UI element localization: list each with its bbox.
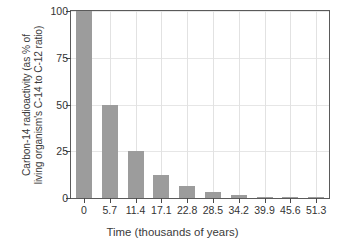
y-axis-title-line-1: Carbon-14 radioactivity (as % of xyxy=(21,34,32,176)
gridline-vertical xyxy=(187,11,188,198)
x-tick-mark xyxy=(161,198,162,203)
x-tick-mark xyxy=(265,198,266,203)
x-tick-mark xyxy=(110,198,111,203)
x-tick-label: 17.1 xyxy=(151,204,171,216)
x-tick-label: 39.9 xyxy=(254,204,274,216)
plot-area: 025507510005.711.417.122.828.534.239.945… xyxy=(70,10,330,199)
x-tick-mark xyxy=(239,198,240,203)
x-tick-label: 11.4 xyxy=(126,204,146,216)
x-axis-title: Time (thousands of years) xyxy=(0,226,345,238)
x-tick-mark xyxy=(136,198,137,203)
x-tick-label: 5.7 xyxy=(102,204,117,216)
y-tick-label: 75 xyxy=(56,52,68,64)
bar xyxy=(76,11,92,198)
x-tick-mark xyxy=(290,198,291,203)
y-tick-label: 25 xyxy=(56,145,68,157)
bar xyxy=(179,186,195,198)
x-tick-mark xyxy=(213,198,214,203)
gridline-vertical xyxy=(213,11,214,198)
y-axis-title-line-2: living organism's C-14 to C-12 ratio) xyxy=(33,26,44,184)
gridline-vertical xyxy=(265,11,266,198)
x-tick-mark xyxy=(187,198,188,203)
x-tick-label: 45.6 xyxy=(280,204,300,216)
x-tick-label: 22.8 xyxy=(177,204,197,216)
x-tick-mark xyxy=(84,198,85,203)
gridline-vertical xyxy=(239,11,240,198)
y-tick-label: 0 xyxy=(62,192,68,204)
y-axis-title: Carbon-14 radioactivity (as % of living … xyxy=(16,10,58,200)
x-tick-label: 0 xyxy=(81,204,87,216)
x-tick-mark xyxy=(316,198,317,203)
x-tick-label: 34.2 xyxy=(228,204,248,216)
bar xyxy=(102,105,118,199)
gridline-vertical xyxy=(290,11,291,198)
y-tick-label: 50 xyxy=(56,99,68,111)
gridline-vertical xyxy=(161,11,162,198)
y-tick-label: 100 xyxy=(50,5,68,17)
plot-inner xyxy=(71,11,329,198)
carbon-14-decay-chart: Carbon-14 radioactivity (as % of living … xyxy=(0,0,345,249)
bar xyxy=(128,151,144,198)
x-tick-label: 28.5 xyxy=(203,204,223,216)
x-tick-label: 51.3 xyxy=(306,204,326,216)
bar xyxy=(153,175,169,198)
gridline-vertical xyxy=(316,11,317,198)
